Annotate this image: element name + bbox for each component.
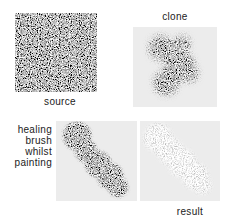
- clone-label: clone: [133, 11, 217, 22]
- result-image: [140, 121, 220, 201]
- heal-vs-clone-figure: source clone healing brush whilst painti…: [0, 0, 227, 222]
- source-label: source: [19, 96, 101, 107]
- healing-brush-image: [56, 121, 137, 201]
- result-label: result: [150, 206, 227, 217]
- clone-image: [133, 27, 217, 107]
- healing-brush-label: healing brush whilst painting: [0, 124, 52, 168]
- source-image: [15, 13, 97, 92]
